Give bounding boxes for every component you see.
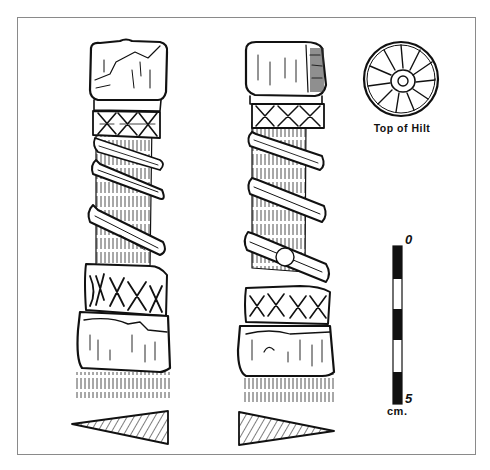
cross-section-left xyxy=(72,411,168,444)
top-of-hilt-caption: Top of Hilt xyxy=(362,122,442,134)
hilt-illustration xyxy=(0,0,490,470)
scale-bar xyxy=(393,246,402,404)
scale-start-label: 0 xyxy=(405,232,412,247)
scale-end-label: 5 xyxy=(405,391,412,406)
right-hilt-view xyxy=(238,42,336,402)
top-of-hilt-detail xyxy=(364,42,438,116)
left-hilt-view xyxy=(74,40,170,399)
scale-unit-label: cm. xyxy=(387,405,407,417)
cross-section-right xyxy=(239,412,334,445)
